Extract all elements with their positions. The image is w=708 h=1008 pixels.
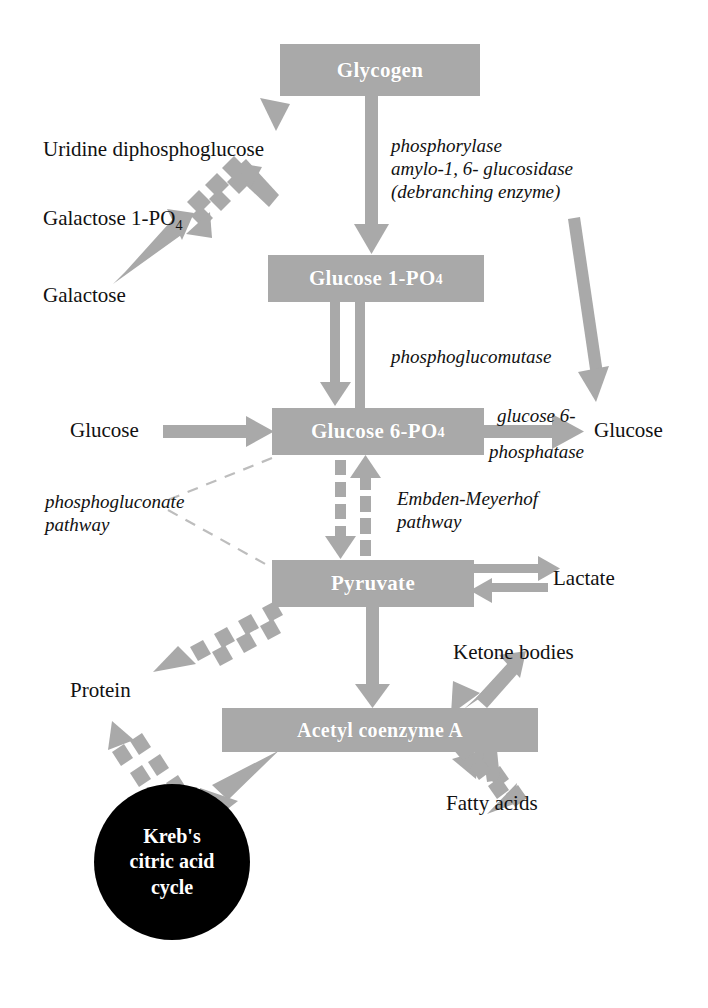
label-galactose-1-po4-sub: 4	[175, 217, 182, 233]
arrow-glucose-left-to-glucose6po4	[163, 416, 274, 447]
node-krebs-citric-acid-cycle[interactable]: Kreb's citric acid cycle	[94, 784, 250, 940]
label-ketone-bodies: Ketone bodies	[453, 640, 574, 665]
label-phosphogluconate-pathway: phosphogluconate pathway	[45, 490, 184, 536]
label-phosphorylase-group: phosphorylase amylo-1, 6- glucosidase (d…	[391, 134, 573, 204]
label-fatty-acids-text: Fatty acids	[446, 791, 538, 815]
node-glycogen[interactable]: Glycogen	[280, 44, 480, 96]
node-pyruvate-label: Pyruvate	[331, 571, 415, 596]
node-acetyl-coenzyme-a[interactable]: Acetyl coenzyme A	[222, 708, 538, 752]
label-glucose-6-phosphatase-line2: phosphatase	[489, 440, 584, 463]
label-embden-meyerhof-pathway: Embden-Meyerhof pathway	[397, 487, 538, 533]
label-protein-text: Protein	[70, 678, 131, 702]
arrow-pyruvate-to-acetylcoa	[355, 607, 390, 708]
krebs-line-2: citric acid	[130, 849, 215, 875]
krebs-line-1: Kreb's	[143, 824, 200, 850]
arrow-pyruvate-lactate	[470, 556, 560, 603]
label-glucose-left: Glucose	[70, 418, 139, 443]
arrow-galactose1po4-to-udpg	[186, 156, 262, 238]
node-pyruvate[interactable]: Pyruvate	[272, 560, 474, 607]
arrow-glucose6po4-pyruvate	[325, 455, 381, 559]
label-galactose-text: Galactose	[43, 283, 126, 307]
label-glucose-right: Glucose	[594, 418, 663, 443]
node-glucose-6-po4-label: Glucose 6-PO	[311, 419, 438, 444]
label-galactose: Galactose	[43, 283, 126, 308]
node-glucose-1-po4-label: Glucose 1-PO	[309, 266, 436, 291]
pathway-diagram-page: .ar { fill: #a9a9a9; } .thin { stroke: #…	[0, 0, 708, 1008]
label-ketone-bodies-text: Ketone bodies	[453, 640, 574, 664]
node-glucose-1-po4[interactable]: Glucose 1-PO4	[268, 255, 484, 302]
label-glucose-right-text: Glucose	[594, 418, 663, 442]
node-glucose-6-po4[interactable]: Glucose 6-PO4	[272, 408, 484, 455]
label-lactate-text: Lactate	[553, 566, 615, 590]
node-glycogen-label: Glycogen	[337, 58, 423, 83]
label-uridine-diphosphoglucose: Uridine diphosphoglucose	[43, 137, 264, 162]
label-lactate: Lactate	[553, 566, 615, 591]
label-glucose-left-text: Glucose	[70, 418, 139, 442]
arrow-pyruvate-to-protein	[153, 601, 283, 672]
node-acetyl-coenzyme-a-label: Acetyl coenzyme A	[297, 719, 463, 742]
label-fatty-acids: Fatty acids	[446, 791, 538, 816]
arrow-glycogen-to-glucose-right	[568, 217, 609, 402]
label-protein: Protein	[70, 678, 131, 703]
label-phosphoglucomutase: phosphoglucomutase	[391, 345, 551, 368]
label-galactose-1-po4: Galactose 1-PO4	[43, 206, 183, 231]
label-galactose-1-po4-text: Galactose 1-PO	[43, 206, 175, 230]
krebs-line-3: cycle	[151, 875, 193, 901]
label-uridine-diphosphoglucose-text: Uridine diphosphoglucose	[43, 137, 264, 161]
label-glucose-6-phosphatase-line1: glucose 6-	[497, 404, 576, 427]
arrow-glycogen-to-glucose1po4	[354, 96, 389, 254]
